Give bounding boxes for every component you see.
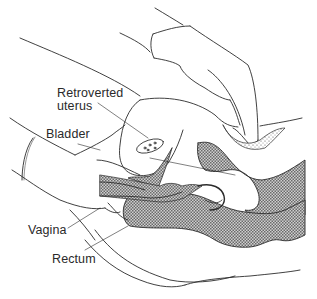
label-vagina: Vagina <box>28 223 67 237</box>
label-retroverted-line2: uterus <box>57 99 92 113</box>
label-bladder: Bladder <box>46 127 90 141</box>
abdominal-indentation <box>223 125 285 149</box>
abdominal-wall <box>140 98 238 127</box>
pelvic-exam-diagram: Retroverted uterus Bladder Vagina Rectum <box>0 0 317 299</box>
diagram-artwork <box>0 0 317 299</box>
uterus <box>120 100 183 176</box>
label-retroverted-line1: Retroverted <box>57 86 123 100</box>
abdominal-hand <box>20 8 258 145</box>
label-rectum: Rectum <box>52 252 96 266</box>
